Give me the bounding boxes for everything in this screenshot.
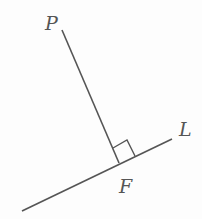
diagram-canvas: P L F bbox=[0, 0, 202, 219]
diagram-svg: P L F bbox=[0, 0, 202, 219]
label-l: L bbox=[178, 118, 192, 140]
right-angle-marker bbox=[113, 140, 135, 156]
label-p: P bbox=[44, 12, 59, 34]
label-f: F bbox=[118, 175, 133, 197]
perpendicular-segment-pf bbox=[62, 30, 119, 163]
line-l bbox=[22, 139, 172, 211]
